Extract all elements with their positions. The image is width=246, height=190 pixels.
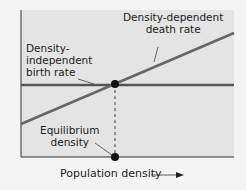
- arrow-right-icon: [176, 172, 184, 178]
- equilibrium-label-line1: Equilibrium: [40, 124, 100, 136]
- x-axis-label: Population density: [60, 168, 162, 180]
- equilibrium-axis-point: [111, 153, 119, 161]
- birth-rate-label-line2: independent: [26, 54, 92, 66]
- equilibrium-label: Equilibrium density: [40, 124, 100, 148]
- equilibrium-point: [111, 80, 119, 88]
- birth-rate-label-line3: birth rate: [26, 66, 92, 78]
- death-rate-label: Density-dependent death rate: [123, 11, 223, 35]
- death-rate-label-line1: Density-dependent: [123, 11, 223, 23]
- death-rate-label-line2: death rate: [123, 23, 223, 35]
- birth-rate-label-line1: Density-: [26, 42, 92, 54]
- equilibrium-label-line2: density: [40, 136, 100, 148]
- birth-rate-label: Density- independent birth rate: [26, 42, 92, 78]
